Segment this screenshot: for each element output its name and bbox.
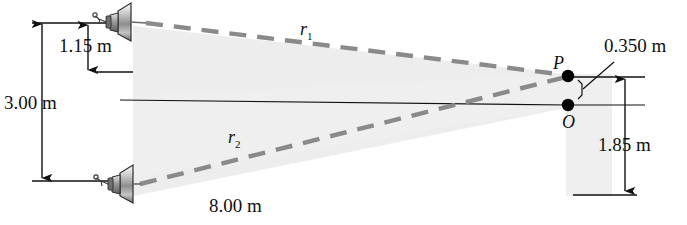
ray-r2-symbol: r	[228, 127, 235, 147]
ray-r1-symbol: r	[300, 19, 307, 39]
physics-diagram: 1.15 m 3.00 m 1.85 m 8.00 m 0.350 m r1 r…	[0, 0, 687, 225]
ray-r2-subscript: 2	[235, 138, 241, 150]
label-1-85m: 1.85 m	[598, 135, 651, 154]
label-point-o: O	[562, 113, 575, 131]
label-point-p: P	[553, 54, 564, 72]
point-o-marker	[562, 99, 574, 111]
label-1-15m: 1.15 m	[59, 36, 112, 55]
label-ray-r2: r2	[228, 128, 241, 150]
diagram-canvas	[0, 0, 687, 225]
label-8-00m: 8.00 m	[209, 196, 262, 215]
label-3-00m: 3.00 m	[4, 93, 57, 112]
label-0-350m: 0.350 m	[604, 36, 666, 55]
label-ray-r1: r1	[300, 20, 313, 42]
ray-r1-subscript: 1	[307, 30, 313, 42]
